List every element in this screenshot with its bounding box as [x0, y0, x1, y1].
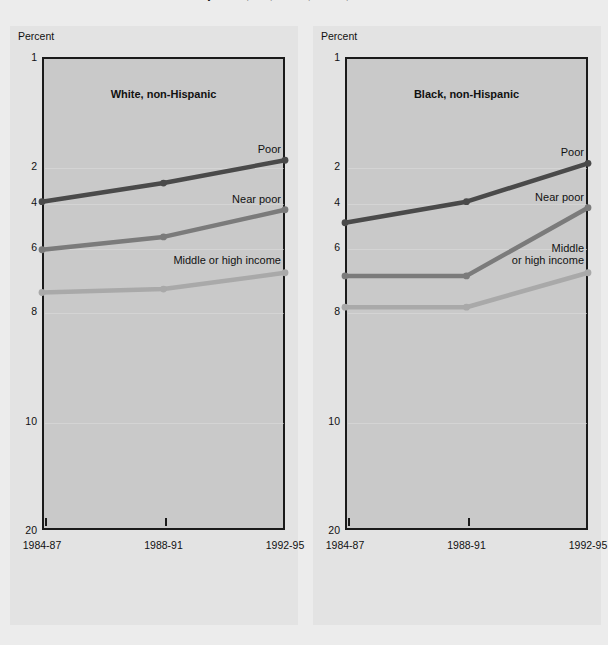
data-point-marker [585, 204, 592, 211]
series-label: Near poor [232, 193, 281, 205]
chart-panels: Percent2010864211984-871988-911992-95Whi… [0, 26, 608, 626]
series-label: Middle or high income [173, 254, 281, 266]
data-point-marker [282, 206, 289, 213]
series-lines [313, 26, 601, 625]
data-point-marker [342, 304, 349, 311]
series-label: Poor [258, 143, 281, 155]
series-label: Poor [561, 146, 584, 158]
data-point-marker [463, 304, 470, 311]
series-line [42, 210, 285, 250]
chart-panel-black: Percent2010864211984-871988-911992-95Bla… [313, 26, 601, 625]
data-point-marker [160, 180, 167, 187]
data-point-marker [282, 157, 289, 164]
data-point-marker [160, 286, 167, 293]
data-point-marker [585, 269, 592, 276]
data-point-marker [585, 160, 592, 167]
cut-off-page-title: Gross of family income, race, 1984-87, 1… [0, 0, 608, 3]
data-point-marker [342, 219, 349, 226]
data-point-marker [39, 289, 46, 296]
data-point-marker [463, 272, 470, 279]
series-lines [10, 26, 298, 625]
data-point-marker [282, 269, 289, 276]
data-point-marker [463, 198, 470, 205]
data-point-marker [39, 246, 46, 253]
chart-panel-white: Percent2010864211984-871988-911992-95Whi… [10, 26, 298, 625]
series-label: Middleor high income [512, 242, 584, 266]
data-point-marker [160, 234, 167, 241]
data-point-marker [342, 272, 349, 279]
data-point-marker [39, 198, 46, 205]
series-label: Near poor [535, 191, 584, 203]
